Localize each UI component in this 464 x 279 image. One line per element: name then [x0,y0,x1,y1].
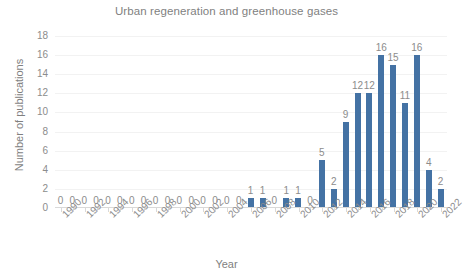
bar-slot[interactable]: 0 [79,36,90,208]
bar-slot[interactable]: 1 [245,36,256,208]
bar[interactable] [378,55,384,208]
chart-title: Urban regeneration and greenhouse gases [0,5,453,17]
bar-slot[interactable]: 0 [198,36,209,208]
bar-slot[interactable]: 0 [162,36,173,208]
bar-slot[interactable]: 2 [328,36,339,208]
bar-slot[interactable]: 0 [209,36,220,208]
bar[interactable] [355,93,361,208]
bar[interactable] [438,189,444,208]
bar-slot[interactable]: 0 [103,36,114,208]
y-tick-label: 8 [8,127,48,137]
bar[interactable] [390,65,396,208]
bar-slot[interactable]: 12 [364,36,375,208]
bar-slot[interactable]: 1 [257,36,268,208]
y-axis-tick-labels: 024681012141618 [0,36,52,208]
bar-slot[interactable]: 12 [352,36,363,208]
y-tick-label: 0 [8,203,48,213]
bar-slot[interactable]: 1 [293,36,304,208]
bar-slot[interactable]: 0 [55,36,66,208]
bar-slot[interactable]: 9 [340,36,351,208]
bar-slot[interactable]: 0 [186,36,197,208]
x-axis-title: Year [0,258,453,270]
bar-slot[interactable]: 0 [67,36,78,208]
bar-slot[interactable]: 0 [304,36,315,208]
plot-area: 000000000000000011011052912121615111642 [55,36,447,208]
y-tick-label: 16 [8,50,48,60]
bar-slot[interactable]: 0 [150,36,161,208]
y-tick-label: 18 [8,31,48,41]
bar-slot[interactable]: 11 [399,36,410,208]
bar[interactable] [402,103,408,208]
bar[interactable] [366,93,372,208]
bar-slot[interactable]: 0 [91,36,102,208]
bar-slot[interactable]: 0 [126,36,137,208]
y-tick-label: 14 [8,69,48,79]
bar-slot[interactable]: 2 [435,36,446,208]
bar-slot[interactable]: 0 [221,36,232,208]
bar-slot[interactable]: 0 [269,36,280,208]
y-tick-label: 12 [8,88,48,98]
y-tick-label: 4 [8,165,48,175]
bar-slot[interactable]: 0 [138,36,149,208]
y-tick-label: 6 [8,146,48,156]
bar[interactable] [414,55,420,208]
y-tick-label: 2 [8,184,48,194]
bar-slot[interactable]: 16 [411,36,422,208]
bar-slot[interactable]: 0 [174,36,185,208]
bar-value-label: 2 [426,177,455,187]
y-tick-label: 10 [8,107,48,117]
bar-slot[interactable]: 0 [114,36,125,208]
bar[interactable] [343,122,349,208]
bar-slot[interactable]: 1 [281,36,292,208]
bar-slot[interactable]: 0 [233,36,244,208]
bar-slot[interactable]: 15 [388,36,399,208]
